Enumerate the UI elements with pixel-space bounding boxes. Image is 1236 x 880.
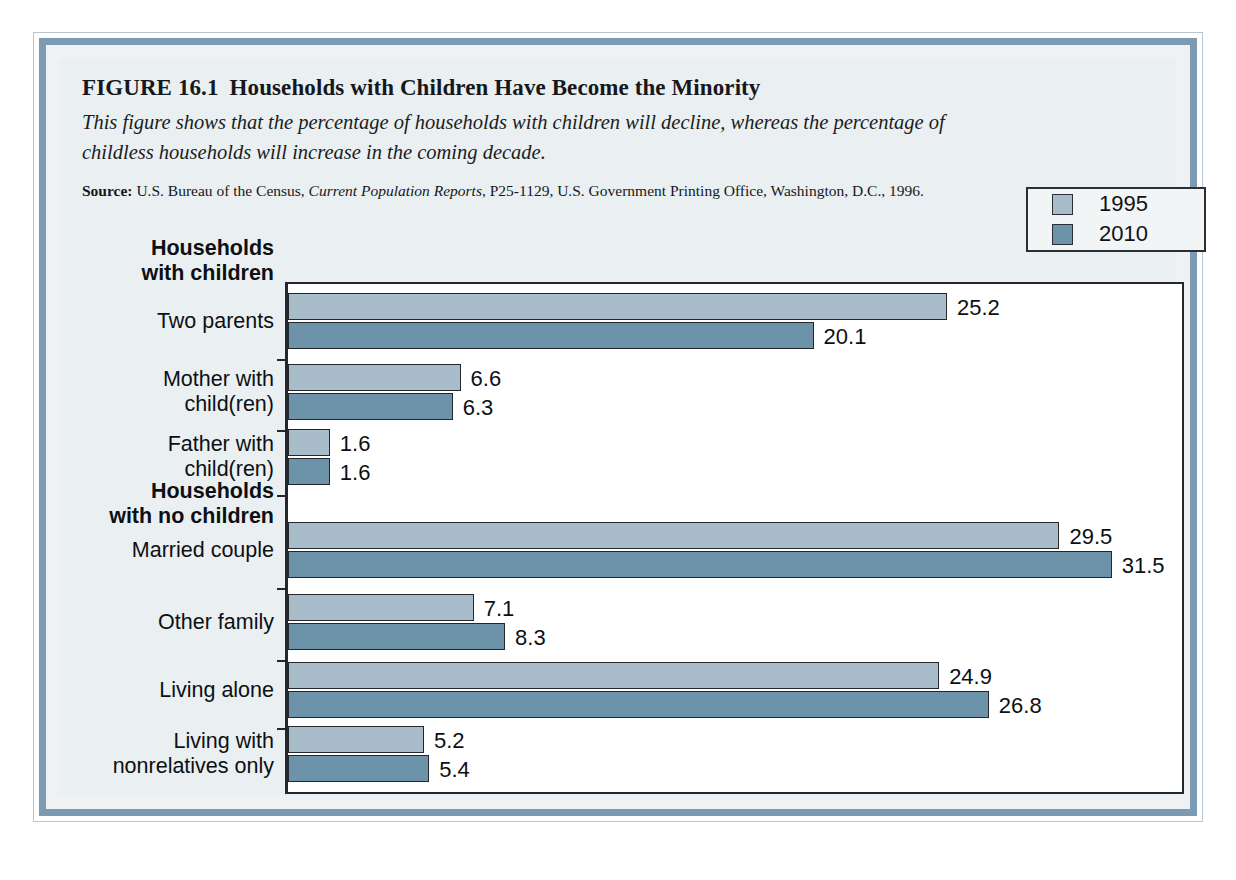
source-publication: Current Population Reports bbox=[309, 182, 482, 199]
bar-1995-5 bbox=[288, 594, 474, 621]
bar-value-label: 1.6 bbox=[340, 433, 371, 455]
figure-number: FIGURE 16.1 bbox=[82, 75, 219, 100]
bar-2010-1 bbox=[288, 322, 814, 349]
bar-2010-3 bbox=[288, 458, 330, 485]
bar-value-label: 24.9 bbox=[949, 666, 992, 688]
bar-1995-3 bbox=[288, 429, 330, 456]
figure-border-band: FIGURE 16.1Households with Children Have… bbox=[39, 38, 1197, 816]
figure-header: FIGURE 16.1Households with Children Have… bbox=[82, 75, 1154, 202]
bar-2010-4 bbox=[288, 551, 1112, 578]
bar-value-label: 8.3 bbox=[515, 627, 546, 649]
bar-value-label: 6.6 bbox=[471, 368, 502, 390]
bar-value-label: 26.8 bbox=[999, 695, 1042, 717]
bar-value-label: 31.5 bbox=[1122, 555, 1165, 577]
axis-tick bbox=[277, 728, 288, 730]
category-label: Other family bbox=[158, 610, 274, 635]
figure-source: Source: U.S. Bureau of the Census, Curre… bbox=[82, 180, 942, 201]
legend-label-2010: 2010 bbox=[1099, 223, 1148, 245]
bar-2010-6 bbox=[288, 691, 989, 718]
legend-swatch-2010 bbox=[1052, 224, 1073, 245]
chart-legend: 1995 2010 bbox=[1026, 187, 1206, 252]
group-heading-with-children: Households with children bbox=[141, 236, 274, 286]
bar-2010-2 bbox=[288, 393, 453, 420]
bar-1995-4 bbox=[288, 522, 1059, 549]
bar-1995-1 bbox=[288, 293, 947, 320]
axis-tick bbox=[277, 359, 288, 361]
bar-value-label: 1.6 bbox=[340, 462, 371, 484]
bar-value-label: 5.2 bbox=[434, 730, 465, 752]
legend-label-1995: 1995 bbox=[1099, 193, 1148, 215]
category-label: Married couple bbox=[132, 538, 274, 563]
bar-value-label: 25.2 bbox=[957, 297, 1000, 319]
category-label: Living alone bbox=[159, 678, 274, 703]
legend-swatch-1995 bbox=[1052, 194, 1073, 215]
axis-tick bbox=[277, 588, 288, 590]
bar-chart: Households with childrenHouseholds with … bbox=[60, 254, 1202, 814]
category-label: Mother with child(ren) bbox=[163, 367, 274, 417]
legend-item-1995: 1995 bbox=[1028, 189, 1204, 219]
group-heading-no-children: Households with no children bbox=[109, 479, 274, 529]
figure-caption: This figure shows that the percentage of… bbox=[82, 108, 982, 167]
bar-value-label: 5.4 bbox=[439, 759, 470, 781]
bar-1995-2 bbox=[288, 364, 461, 391]
figure-title-text: Households with Children Have Become the… bbox=[230, 75, 761, 100]
figure-outer-frame: FIGURE 16.1Households with Children Have… bbox=[33, 32, 1203, 822]
category-label: Living with nonrelatives only bbox=[113, 729, 274, 779]
figure-body: FIGURE 16.1Households with Children Have… bbox=[60, 59, 1176, 795]
source-text-part1: U.S. Bureau of the Census, bbox=[136, 182, 304, 199]
bar-1995-6 bbox=[288, 662, 939, 689]
axis-tick bbox=[277, 660, 288, 662]
legend-item-2010: 2010 bbox=[1028, 219, 1204, 249]
source-text-part2: , P25-1129, U.S. Government Printing Off… bbox=[482, 182, 924, 199]
bar-value-label: 6.3 bbox=[463, 397, 494, 419]
bar-2010-5 bbox=[288, 623, 505, 650]
bar-1995-7 bbox=[288, 726, 424, 753]
axis-tick bbox=[277, 495, 288, 497]
bar-value-label: 7.1 bbox=[484, 598, 515, 620]
figure-title: FIGURE 16.1Households with Children Have… bbox=[82, 75, 1154, 101]
bar-2010-7 bbox=[288, 755, 429, 782]
bar-value-label: 29.5 bbox=[1069, 526, 1112, 548]
bar-value-label: 20.1 bbox=[824, 326, 867, 348]
axis-tick bbox=[277, 430, 288, 432]
category-label: Two parents bbox=[157, 309, 274, 334]
category-label: Father with child(ren) bbox=[168, 432, 274, 482]
source-label: Source: bbox=[82, 182, 133, 199]
